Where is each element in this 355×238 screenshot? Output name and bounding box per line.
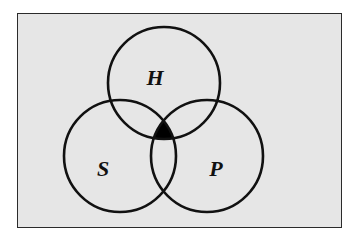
label-h: H — [145, 65, 164, 90]
label-p: P — [208, 156, 223, 181]
venn-diagram: H S P — [0, 0, 355, 238]
circle-p — [151, 100, 263, 212]
label-s: S — [97, 156, 109, 181]
